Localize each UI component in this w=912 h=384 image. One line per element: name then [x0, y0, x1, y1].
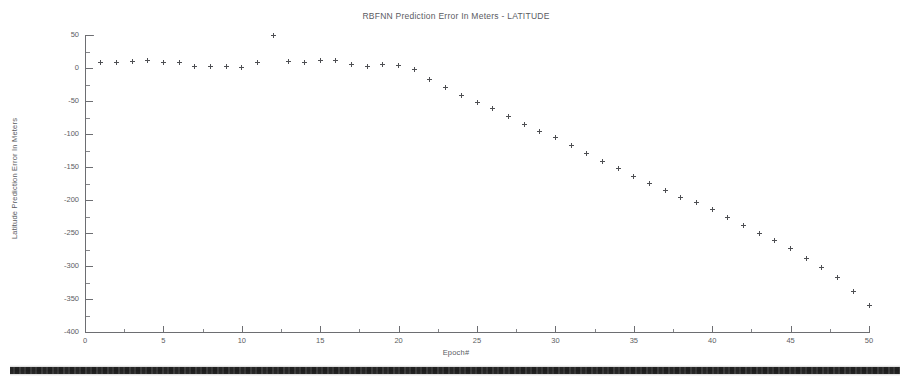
data-point-marker: [835, 275, 840, 280]
data-point-marker: [161, 60, 166, 65]
data-point-marker: [694, 200, 699, 205]
data-point-marker: [349, 62, 354, 67]
y-tick-label: -100: [33, 129, 79, 138]
data-point-marker: [647, 181, 652, 186]
x-tick-label: 20: [384, 336, 414, 345]
data-point-marker: [584, 151, 589, 156]
data-point-marker: [678, 195, 683, 200]
data-point-marker: [380, 62, 385, 67]
data-point-marker: [506, 114, 511, 119]
data-point-marker: [663, 188, 668, 193]
y-tick-label: 50: [33, 30, 79, 39]
data-point-marker: [569, 143, 574, 148]
data-point-marker: [208, 64, 213, 69]
x-tick-label: 25: [462, 336, 492, 345]
data-point-marker: [772, 238, 777, 243]
data-point-marker: [475, 100, 480, 105]
data-point-marker: [459, 93, 464, 98]
data-point-marker: [553, 135, 558, 140]
data-point-marker: [224, 64, 229, 69]
data-point-marker: [757, 231, 762, 236]
x-tick-label: 15: [305, 336, 335, 345]
chart-title: RBFNN Prediction Error In Meters - LATIT…: [0, 11, 912, 21]
data-point-marker: [710, 207, 715, 212]
y-tick-label: -300: [33, 261, 79, 270]
x-tick-label: 35: [619, 336, 649, 345]
x-tick-label: 10: [227, 336, 257, 345]
data-point-marker: [192, 64, 197, 69]
data-point-marker: [98, 60, 103, 65]
scan-artifact-band: [10, 367, 900, 374]
data-point-marker: [600, 159, 605, 164]
data-point-marker: [396, 63, 401, 68]
y-tick-label: -150: [33, 162, 79, 171]
data-point-marker: [804, 256, 809, 261]
data-point-marker: [819, 265, 824, 270]
data-point-marker: [443, 85, 448, 90]
x-tick-label: 5: [148, 336, 178, 345]
y-tick-label: -350: [33, 294, 79, 303]
plot-data-area: [85, 35, 869, 332]
x-axis-title: Epoch#: [0, 348, 912, 357]
data-point-marker: [286, 59, 291, 64]
data-point-marker: [255, 60, 260, 65]
chart-figure: RBFNN Prediction Error In Meters - LATIT…: [0, 0, 912, 384]
data-point-marker: [788, 246, 793, 251]
y-axis-title: Latitude Prediction Error In Meters: [10, 99, 19, 259]
data-point-marker: [522, 122, 527, 127]
data-point-marker: [867, 303, 872, 308]
x-tick-major: [869, 326, 870, 332]
y-tick-label: -250: [33, 228, 79, 237]
y-tick-label: -50: [33, 96, 79, 105]
x-tick-label: 50: [854, 336, 884, 345]
data-point-marker: [427, 77, 432, 82]
y-tick-major: [86, 332, 93, 333]
data-point-marker: [490, 106, 495, 111]
data-point-marker: [145, 58, 150, 63]
x-axis-line: [85, 332, 870, 333]
data-point-marker: [333, 58, 338, 63]
x-tick-label: 30: [540, 336, 570, 345]
data-point-marker: [616, 166, 621, 171]
data-point-marker: [177, 60, 182, 65]
x-tick-label: 40: [697, 336, 727, 345]
data-point-marker: [318, 58, 323, 63]
data-point-marker: [271, 33, 276, 38]
data-point-marker: [851, 289, 856, 294]
y-tick-label: 0: [33, 63, 79, 72]
y-tick-label: -400: [33, 327, 79, 336]
data-point-marker: [537, 129, 542, 134]
data-point-marker: [130, 59, 135, 64]
data-point-marker: [114, 60, 119, 65]
data-point-marker: [365, 64, 370, 69]
y-tick-label: -200: [33, 195, 79, 204]
x-tick-label: 45: [776, 336, 806, 345]
x-tick-label: 0: [70, 336, 100, 345]
data-point-marker: [631, 174, 636, 179]
data-point-marker: [412, 67, 417, 72]
data-point-marker: [741, 223, 746, 228]
data-point-marker: [239, 65, 244, 70]
data-point-marker: [302, 60, 307, 65]
data-point-marker: [725, 215, 730, 220]
